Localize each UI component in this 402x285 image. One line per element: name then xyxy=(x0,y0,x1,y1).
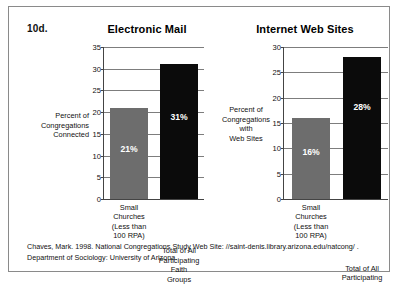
category-line: 100 RPA) xyxy=(283,231,339,240)
plot-area-left: 35 30 25 20 15 10 5 0 21% Small Churches… xyxy=(103,47,204,200)
gridline xyxy=(284,47,388,48)
tick-mark xyxy=(281,199,284,200)
citation-line-1: Chaves, Mark. 1998. National Congregatio… xyxy=(27,241,381,252)
y-tick-label: 5 xyxy=(277,169,281,178)
figure-frame: 10d. Electronic Mail Percent of Congrega… xyxy=(8,6,390,272)
y-tick-label: 10 xyxy=(273,144,281,153)
y-axis-caption-line: with xyxy=(213,124,279,134)
y-tick-label: 20 xyxy=(93,108,101,117)
tick-mark xyxy=(281,72,284,73)
bar-value-label: 21% xyxy=(110,144,148,154)
y-tick-label: 25 xyxy=(93,86,101,95)
chart-title-left: Electronic Mail xyxy=(47,23,209,35)
bar-value-label: 16% xyxy=(292,147,330,157)
category-line: 100 RPA) xyxy=(101,231,157,240)
tick-mark xyxy=(101,112,104,113)
y-tick-label: 30 xyxy=(93,64,101,73)
category-line: Churches xyxy=(283,212,339,221)
y-axis-caption-line: Congregations xyxy=(23,121,89,131)
y-tick-label: 0 xyxy=(277,195,281,204)
tick-mark xyxy=(101,69,104,70)
y-tick-label: 20 xyxy=(273,93,281,102)
tick-mark xyxy=(101,47,104,48)
chart-panel-electronic-mail: Electronic Mail Percent of Congregations… xyxy=(23,19,213,234)
tick-mark xyxy=(281,98,284,99)
category-label-small-churches-left: Small Churches (Less than 100 RPA) xyxy=(101,203,157,241)
plot-area-right: 30 25 20 15 10 5 0 16% Small Churches (L… xyxy=(283,47,388,200)
y-axis-caption-line: Percent of xyxy=(213,105,279,115)
category-line: Faith xyxy=(149,265,209,274)
y-tick-label: 5 xyxy=(97,173,101,182)
y-tick-label: 35 xyxy=(93,43,101,52)
chart-panel-internet-web-sites: Internet Web Sites Percent of Congregati… xyxy=(213,19,397,234)
gridline xyxy=(104,47,204,48)
y-tick-label: 15 xyxy=(93,129,101,138)
y-tick-label: 15 xyxy=(273,119,281,128)
source-citation: Chaves, Mark. 1998. National Congregatio… xyxy=(27,241,381,263)
y-tick-label: 30 xyxy=(273,43,281,52)
category-label-total-right: Total of All Participating Faith Groups xyxy=(332,264,392,285)
category-line: (Less than xyxy=(101,222,157,231)
category-line: Participating xyxy=(332,273,392,282)
category-line: Small xyxy=(283,203,339,212)
bar-small-churches-left[interactable]: 21% Small Churches (Less than 100 RPA) xyxy=(110,108,148,199)
category-line: Churches xyxy=(101,212,157,221)
bar-total-all-groups-left[interactable]: 31% Total of All Participating Faith Gro… xyxy=(160,64,198,199)
y-tick-label: 10 xyxy=(93,151,101,160)
tick-mark xyxy=(101,177,104,178)
y-tick-label: 25 xyxy=(273,68,281,77)
tick-mark xyxy=(281,123,284,124)
tick-mark xyxy=(281,148,284,149)
tick-mark xyxy=(101,156,104,157)
category-line: Small xyxy=(101,203,157,212)
category-line: Groups xyxy=(149,275,209,284)
category-label-small-churches-right: Small Churches (Less than 100 RPA) xyxy=(283,203,339,241)
bar-value-label: 31% xyxy=(160,112,198,122)
bar-small-churches-right[interactable]: 16% Small Churches (Less than 100 RPA) xyxy=(292,118,330,199)
y-axis-caption-left: Percent of Congregations Connected xyxy=(23,111,89,140)
tick-mark xyxy=(281,174,284,175)
tick-mark xyxy=(101,134,104,135)
citation-line-2: Department of Sociology: University of A… xyxy=(27,252,381,263)
y-axis-caption-line: Percent of xyxy=(23,111,89,121)
chart-title-right: Internet Web Sites xyxy=(213,23,397,35)
tick-mark xyxy=(281,47,284,48)
tick-mark xyxy=(101,199,104,200)
y-axis-caption-right: Percent of Congregations with Web Sites xyxy=(213,105,279,143)
bar-total-all-groups-right[interactable]: 28% Total of All Participating Faith Gro… xyxy=(343,57,381,199)
category-line: (Less than xyxy=(283,222,339,231)
tick-mark xyxy=(101,90,104,91)
y-axis-caption-line: Web Sites xyxy=(213,134,279,144)
y-axis-caption-line: Connected xyxy=(23,130,89,140)
y-axis-caption-line: Congregations xyxy=(213,115,279,125)
bar-value-label: 28% xyxy=(343,102,381,112)
category-line: Total of All xyxy=(332,264,392,273)
